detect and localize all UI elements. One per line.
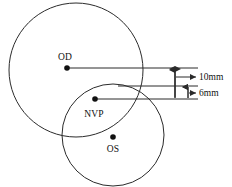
dimension-label-6mm: 6mm (199, 88, 219, 98)
point-nvp (92, 96, 98, 102)
circle-od (9, 3, 143, 137)
point-od-center (64, 65, 70, 71)
diagram-canvas: OD NVP OS 10mm 6mm (0, 0, 232, 187)
dimension-label-10mm: 10mm (199, 72, 224, 82)
label-od: OD (58, 52, 72, 62)
label-os: OS (107, 144, 120, 154)
point-os-center (110, 134, 116, 140)
label-nvp: NVP (84, 109, 104, 119)
overlapping-circles-figure: OD NVP OS 10mm 6mm (0, 0, 232, 187)
